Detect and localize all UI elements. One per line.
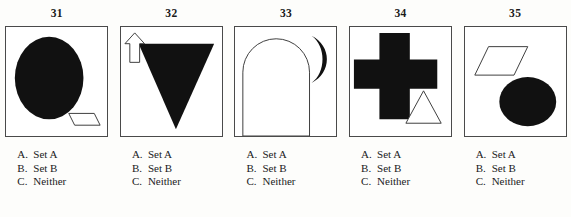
figure-34-cross-and-triangle[interactable]: [349, 26, 452, 137]
options-list: A. Set A B. Set B C. Neither: [120, 148, 223, 189]
option-text: Set A: [33, 148, 57, 162]
options-list: A. Set A B. Set B C. Neither: [349, 148, 452, 189]
option-letter: B.: [132, 162, 148, 176]
option-letter: A.: [17, 148, 33, 162]
small-white-parallelogram: [474, 47, 527, 75]
question-sheet: 31 A. Set A B. Set B C. Neither: [0, 0, 571, 217]
option-letter: B.: [246, 162, 262, 176]
option-row-c[interactable]: C. Neither: [132, 175, 181, 189]
question-item-34: 34 A. Set A B. Set B C. Neither: [345, 0, 457, 217]
figure-31-ellipse-and-parallelogram[interactable]: [5, 26, 108, 137]
option-row-a[interactable]: A. Set A: [132, 148, 172, 162]
item-number: 32: [165, 6, 177, 20]
options-list: A. Set A B. Set B C. Neither: [5, 148, 108, 189]
option-letter: A.: [361, 148, 377, 162]
option-text: Set B: [262, 162, 286, 176]
figure-33-arch-and-crescent[interactable]: [234, 26, 337, 137]
question-item-35: 35 A. Set A B. Set B C. Neither: [459, 0, 571, 217]
option-row-c[interactable]: C. Neither: [17, 175, 66, 189]
option-letter: C.: [476, 175, 492, 189]
option-text: Set B: [148, 162, 172, 176]
option-text: Neither: [492, 175, 525, 189]
option-text: Set B: [33, 162, 57, 176]
small-black-crescent-moon: [312, 36, 327, 83]
figure-32-triangle-and-arrow[interactable]: [120, 26, 223, 137]
option-row-b[interactable]: B. Set B: [132, 162, 172, 176]
item-number: 35: [509, 6, 521, 20]
option-row-b[interactable]: B. Set B: [476, 162, 516, 176]
option-row-c[interactable]: C. Neither: [361, 175, 410, 189]
option-letter: A.: [132, 148, 148, 162]
option-letter: C.: [132, 175, 148, 189]
item-number: 33: [280, 6, 292, 20]
option-text: Set A: [377, 148, 401, 162]
option-text: Set A: [492, 148, 516, 162]
option-row-a[interactable]: A. Set A: [476, 148, 516, 162]
option-row-b[interactable]: B. Set B: [246, 162, 286, 176]
option-row-a[interactable]: A. Set A: [17, 148, 57, 162]
option-text: Neither: [262, 175, 295, 189]
options-list: A. Set A B. Set B C. Neither: [464, 148, 567, 189]
large-black-down-triangle: [139, 44, 215, 129]
question-item-32: 32 A. Set A B. Set B C. Neither: [116, 0, 228, 217]
option-letter: C.: [17, 175, 33, 189]
question-items-row: 31 A. Set A B. Set B C. Neither: [0, 0, 571, 217]
option-letter: C.: [246, 175, 262, 189]
option-row-c[interactable]: C. Neither: [246, 175, 295, 189]
option-row-b[interactable]: B. Set B: [17, 162, 57, 176]
option-text: Neither: [377, 175, 410, 189]
option-text: Set B: [492, 162, 516, 176]
option-text: Neither: [148, 175, 181, 189]
option-letter: B.: [17, 162, 33, 176]
option-row-a[interactable]: A. Set A: [246, 148, 286, 162]
option-text: Neither: [33, 175, 66, 189]
large-black-ellipse: [499, 77, 556, 126]
question-item-33: 33 A. Set A B. Set B C. Neither: [230, 0, 342, 217]
large-white-arch: [243, 39, 310, 136]
option-row-a[interactable]: A. Set A: [361, 148, 401, 162]
option-text: Set A: [148, 148, 172, 162]
small-white-parallelogram: [69, 113, 100, 125]
option-letter: B.: [361, 162, 377, 176]
option-row-c[interactable]: C. Neither: [476, 175, 525, 189]
option-letter: A.: [246, 148, 262, 162]
option-text: Set B: [377, 162, 401, 176]
item-number: 31: [51, 6, 63, 20]
options-list: A. Set A B. Set B C. Neither: [234, 148, 337, 189]
small-white-triangle: [406, 91, 441, 123]
option-letter: B.: [476, 162, 492, 176]
option-letter: A.: [476, 148, 492, 162]
option-letter: C.: [361, 175, 377, 189]
item-number: 34: [395, 6, 407, 20]
question-item-31: 31 A. Set A B. Set B C. Neither: [1, 0, 113, 217]
large-black-ellipse: [15, 37, 84, 119]
figure-35-parallelogram-and-circle[interactable]: [464, 26, 567, 137]
option-text: Set A: [262, 148, 286, 162]
option-row-b[interactable]: B. Set B: [361, 162, 401, 176]
